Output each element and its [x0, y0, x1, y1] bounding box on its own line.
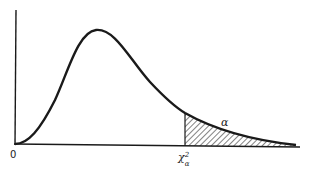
- critical-value-label: χ2α: [178, 151, 185, 164]
- chi-square-figure: [0, 0, 315, 177]
- critical-sup: 2: [185, 151, 189, 159]
- area-label: α: [221, 116, 228, 129]
- origin-label: 0: [10, 149, 16, 160]
- critical-sub: α: [185, 160, 190, 168]
- y-axis: [15, 10, 16, 145]
- density-curve: [15, 30, 296, 145]
